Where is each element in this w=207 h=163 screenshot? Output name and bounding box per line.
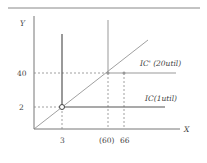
y-axis-label: Y bbox=[20, 19, 26, 28]
corner-point-ic-prime bbox=[107, 72, 110, 75]
guide-lines bbox=[34, 73, 124, 129]
expansion-ray bbox=[34, 40, 148, 129]
y-tick-40: 40 bbox=[17, 69, 27, 78]
x-tick-3: 3 bbox=[60, 136, 65, 145]
point-66-40 bbox=[123, 72, 126, 75]
corner-point-ic bbox=[60, 105, 65, 110]
x-tick-66: 66 bbox=[120, 136, 130, 145]
x-axis-label: X bbox=[183, 125, 190, 134]
diagram-canvas: Y X 40 2 3 (60) 66 IC' (20util) IC(1util… bbox=[0, 0, 207, 163]
y-tick-2: 2 bbox=[19, 103, 24, 112]
x-tick-60: (60) bbox=[99, 136, 114, 145]
ic-label: IC(1util) bbox=[144, 94, 177, 103]
ic-prime-label: IC' (20util) bbox=[139, 59, 181, 68]
